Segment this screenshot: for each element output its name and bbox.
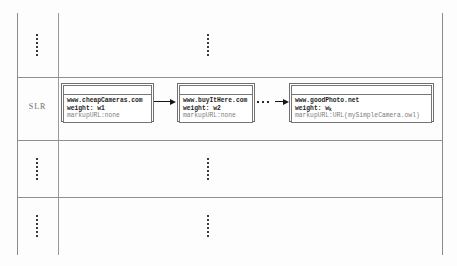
node-body-compartment: www.goodPhoto.net weight: wk markupURL:U… <box>291 94 432 123</box>
arrow-icon <box>154 100 176 103</box>
horizontal-ellipsis-icon <box>257 100 269 103</box>
table-row <box>17 13 443 77</box>
node-weight: weight: w2 <box>183 105 249 113</box>
node-url: www.goodPhoto.net <box>295 97 428 105</box>
vertical-ellipsis-icon <box>32 29 42 61</box>
row-label-slr: SLR <box>17 102 58 111</box>
vertical-ellipsis-icon <box>203 210 213 242</box>
vertical-ellipsis-icon <box>32 210 42 242</box>
page-node: www.goodPhoto.net weight: wk markupURL:U… <box>289 83 434 122</box>
node-body-compartment: www.buyItHere.com weight: w2 markupURL:n… <box>179 94 253 123</box>
table-row: SLR www.cheapCameras.com weight: w1 mark… <box>17 78 443 140</box>
node-markupurl: markupURL:URL(mySimpleCamera.owl) <box>295 112 428 120</box>
table-row <box>17 141 443 197</box>
vertical-ellipsis-icon <box>32 153 42 185</box>
node-weight: weight: wk <box>295 105 428 113</box>
table-row <box>17 198 443 255</box>
table-frame: SLR www.cheapCameras.com weight: w1 mark… <box>17 13 443 255</box>
node-header-compartment <box>291 85 432 94</box>
vertical-ellipsis-icon <box>203 153 213 185</box>
node-markupurl: markupURL:none <box>67 112 148 120</box>
node-header-compartment <box>179 85 253 94</box>
node-weight-text: weight: w <box>295 105 329 112</box>
node-url: www.cheapCameras.com <box>67 97 148 105</box>
node-weight: weight: w1 <box>67 105 148 113</box>
node-body-compartment: www.cheapCameras.com weight: w1 markupUR… <box>63 94 152 123</box>
node-header-compartment <box>63 85 152 94</box>
scanned-figure-page: SLR www.cheapCameras.com weight: w1 mark… <box>0 0 457 266</box>
page-node: www.cheapCameras.com weight: w1 markupUR… <box>61 83 154 122</box>
vertical-ellipsis-icon <box>203 29 213 61</box>
node-markupurl: markupURL:none <box>183 112 249 120</box>
node-url: www.buyItHere.com <box>183 97 249 105</box>
node-weight-subscript: k <box>329 107 332 112</box>
arrow-icon <box>275 100 289 103</box>
page-node: www.buyItHere.com weight: w2 markupURL:n… <box>177 83 255 122</box>
